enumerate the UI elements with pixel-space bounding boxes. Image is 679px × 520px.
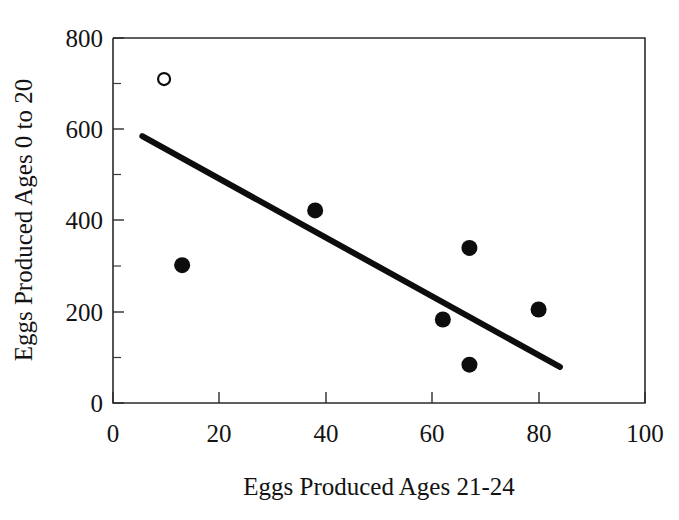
data-point-filled [461, 240, 477, 256]
data-point-open [158, 73, 170, 85]
y-tick-label-200: 200 [66, 299, 104, 326]
x-axis-ticks [113, 392, 645, 403]
x-tick-label-40: 40 [314, 420, 339, 447]
plot-frame [113, 38, 645, 403]
y-axis-title: Eggs Produced Ages 0 to 20 [10, 79, 37, 362]
y-axis-tick-labels: 800 600 400 200 0 [66, 25, 104, 417]
x-axis-tick-labels: 0 20 40 60 80 100 [107, 420, 664, 447]
data-point-filled [307, 202, 323, 218]
x-tick-label-20: 20 [207, 420, 232, 447]
axis-frame-rect [113, 38, 645, 403]
data-point-filled [174, 257, 190, 273]
x-tick-label-0: 0 [107, 420, 120, 447]
data-point-filled [531, 301, 547, 317]
x-tick-label-60: 60 [420, 420, 445, 447]
x-axis-title: Eggs Produced Ages 21-24 [243, 473, 515, 500]
data-point-filled [461, 357, 477, 373]
y-tick-label-600: 600 [66, 116, 104, 143]
y-axis-major-ticks [113, 38, 124, 403]
y-tick-label-800: 800 [66, 25, 104, 52]
x-tick-label-100: 100 [626, 420, 664, 447]
scatter-plot-figure: 800 600 400 200 0 0 20 40 60 80 100 Eggs… [0, 0, 679, 520]
y-tick-label-400: 400 [66, 207, 104, 234]
data-point-filled [435, 312, 451, 328]
x-tick-label-80: 80 [527, 420, 552, 447]
y-tick-label-0: 0 [91, 390, 104, 417]
plot-canvas: 800 600 400 200 0 0 20 40 60 80 100 Eggs… [0, 0, 679, 520]
regression-trend-line [142, 136, 560, 367]
